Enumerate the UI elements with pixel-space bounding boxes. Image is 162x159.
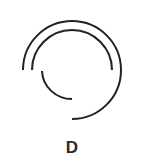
outer-arc (23, 21, 121, 119)
option-label: D (0, 139, 144, 157)
inner-arc (42, 71, 72, 99)
middle-arc (32, 30, 112, 70)
concentric-arcs-figure (0, 0, 162, 159)
